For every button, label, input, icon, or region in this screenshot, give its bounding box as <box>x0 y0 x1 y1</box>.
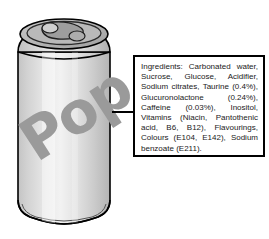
soda-can <box>12 14 116 228</box>
diagram-canvas: Pop Ingredients: Carbonated water, Sucro… <box>0 0 269 239</box>
ingredients-text: Ingredients: Carbonated water, Sucrose, … <box>141 62 258 154</box>
ingredients-callout: Ingredients: Carbonated water, Sucrose, … <box>133 55 265 157</box>
can-body <box>18 52 110 224</box>
